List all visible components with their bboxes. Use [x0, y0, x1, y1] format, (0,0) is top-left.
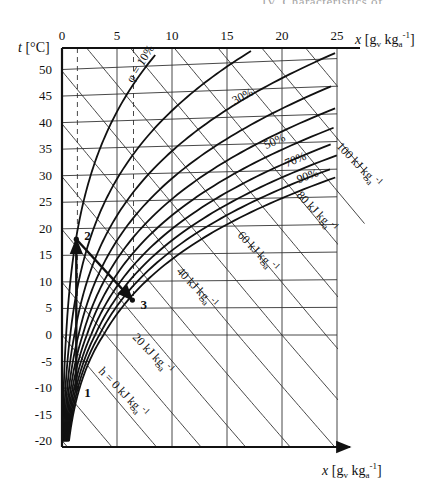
y-tick--20: -20 — [22, 434, 52, 447]
isotherm-15 — [62, 252, 337, 255]
enthalpy-line-110 — [296, 36, 392, 151]
bottom-x-axis-title: x [gv kga-1] — [322, 459, 382, 482]
x-tick-25: 25 — [325, 29, 349, 42]
y-tick-15: 15 — [22, 248, 52, 261]
y-tick--5: -5 — [22, 355, 52, 368]
x-tick-0: 0 — [50, 29, 74, 42]
process-point-label-3: 3 — [140, 298, 147, 311]
enthalpy-line--20 — [62, 441, 70, 451]
x-tick-20: 20 — [270, 29, 294, 42]
y-tick-35: 35 — [22, 142, 52, 155]
process-point-3 — [130, 298, 135, 303]
enthalpy-line-30 — [62, 177, 293, 451]
rh-curve-20 — [63, 51, 251, 441]
top-x-axis-title: x [gv kga-1] — [355, 28, 415, 51]
y-tick--10: -10 — [22, 381, 52, 394]
y-tick-45: 45 — [22, 89, 52, 102]
mollier-chart — [0, 0, 443, 493]
y-tick-5: 5 — [22, 301, 52, 314]
y-tick-10: 10 — [22, 275, 52, 288]
enthalpy-line-90 — [211, 39, 393, 256]
y-axis-title: t [°C] — [18, 41, 50, 55]
process-point-1 — [74, 386, 79, 391]
y-tick-50: 50 — [22, 63, 52, 76]
x-tick-5: 5 — [105, 29, 129, 42]
enthalpy-ext-90 — [337, 191, 365, 224]
x-tick-10: 10 — [160, 29, 184, 42]
y-tick-25: 25 — [22, 195, 52, 208]
y-tick-30: 30 — [22, 169, 52, 182]
y-tick-0: 0 — [22, 328, 52, 341]
process-point-label-1: 1 — [84, 386, 91, 399]
x-tick-15: 15 — [215, 29, 239, 42]
y-tick--15: -15 — [22, 408, 52, 421]
process-point-label-2: 2 — [84, 229, 91, 242]
y-tick-40: 40 — [22, 116, 52, 129]
y-tick-20: 20 — [22, 222, 52, 235]
process-point-2 — [74, 237, 79, 242]
enthalpy-line-70 — [125, 42, 392, 361]
